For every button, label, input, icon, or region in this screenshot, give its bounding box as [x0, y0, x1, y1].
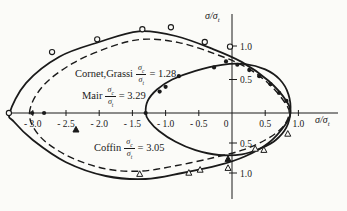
x-tick-label: - 1.5: [124, 119, 142, 129]
filled-dot-marker: [177, 74, 181, 78]
annotation-coffin: Coffin σc σt = 3.05: [94, 137, 165, 160]
annotation-name: Coffin: [94, 143, 121, 154]
filled-dot-marker: [158, 89, 162, 93]
filled-dot-marker: [224, 59, 228, 63]
y-axis-label: σ/σt: [205, 11, 220, 24]
open-circle-marker: [140, 27, 145, 32]
y-tick-label: 0.5: [240, 75, 252, 85]
annotation-value: = 1.28: [149, 69, 176, 80]
annotation-value: = 3.29: [119, 91, 146, 102]
fraction-denominator: σt: [106, 97, 115, 108]
plot-canvas: - 3.0- 2.5- 2.0- 1.5- 1.0- 0.500.51.01.0…: [0, 0, 347, 211]
filled-dot-marker: [30, 111, 34, 115]
biaxial-stress-envelope-figure: - 3.0- 2.5- 2.0- 1.5- 1.0- 0.500.51.01.0…: [0, 0, 347, 211]
x-tick-label: - 3.0: [24, 119, 42, 129]
annotation-name: Cornet,Grassi: [75, 69, 133, 80]
x-axis-label-subscript: t: [328, 120, 330, 127]
y-tick-label: 1.0: [240, 42, 252, 52]
open-circle-marker: [49, 49, 54, 54]
sigma-ratio-fraction: σc σt: [136, 63, 146, 86]
x-tick-label: 0.5: [259, 119, 271, 129]
filled-dot-marker: [257, 74, 261, 78]
open-circle-marker: [168, 25, 173, 30]
x-tick-label: 0: [224, 119, 229, 129]
sigma-ratio-fraction: σc σt: [105, 85, 115, 108]
x-axis-label: σ/σt: [315, 115, 330, 128]
x-tick-label: - 1.0: [157, 119, 175, 129]
fraction-denominator: σt: [125, 149, 134, 160]
sigma-ratio-fraction: σc σt: [124, 137, 134, 160]
open-circle-marker: [95, 37, 100, 42]
x-axis-label-text: σ/σ: [315, 114, 328, 125]
x-tick-label: - 2.0: [90, 119, 108, 129]
annotation-value: = 3.05: [138, 143, 165, 154]
x-tick-label: 1.0: [292, 119, 304, 129]
annotation-mair: Mair σc σt = 3.29: [82, 85, 146, 108]
open-circle-marker: [6, 110, 11, 115]
filled-dot-marker: [277, 91, 281, 95]
open-circle-marker: [227, 44, 232, 49]
x-tick-label: - 2.5: [57, 119, 75, 129]
triangle-filled-marker: [225, 156, 231, 162]
fraction-numerator: σc: [124, 137, 134, 149]
filled-dot-marker: [284, 99, 288, 103]
x-tick-label: - 0.5: [190, 119, 208, 129]
filled-dot-marker: [42, 111, 46, 115]
annotation-cornet-grassi: Cornet,Grassi σc σt = 1.28: [75, 63, 176, 86]
y-axis-label-subscript: t: [218, 16, 220, 23]
fraction-numerator: σc: [136, 63, 146, 75]
filled-dot-marker: [235, 63, 239, 67]
filled-dot-marker: [212, 65, 216, 69]
annotation-name: Mair: [82, 91, 102, 102]
fraction-numerator: σc: [105, 85, 115, 97]
filled-dot-marker: [247, 68, 251, 72]
filled-dot-marker: [144, 111, 148, 115]
triangle-open-marker: [285, 131, 291, 137]
y-axis-label-text: σ/σ: [205, 10, 218, 21]
y-tick-label: 1.0: [240, 169, 252, 179]
triangle-open-marker: [225, 165, 231, 171]
filled-dot-marker: [268, 82, 272, 86]
open-circle-marker: [202, 39, 207, 44]
